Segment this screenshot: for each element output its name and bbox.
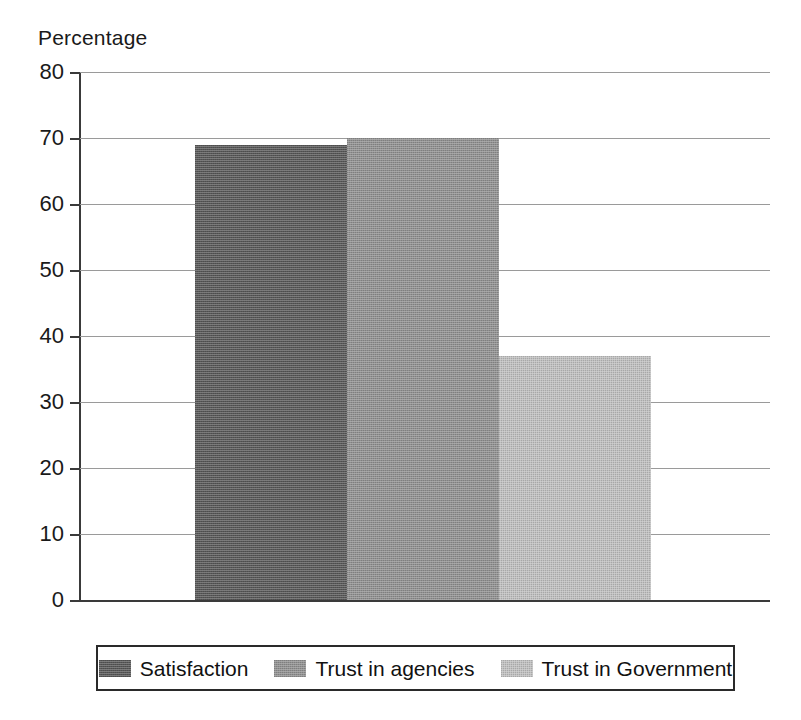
bar-satisfaction — [195, 145, 347, 600]
legend-label: Trust in agencies — [315, 658, 474, 679]
legend-item: Satisfaction — [99, 658, 249, 679]
bar-trust-in-government — [499, 356, 651, 600]
bar-texture — [347, 138, 499, 600]
y-tick-label: 60 — [8, 193, 64, 215]
y-axis-title: Percentage — [38, 26, 147, 50]
bar-texture — [499, 356, 651, 600]
y-tick-label: 20 — [8, 457, 64, 479]
y-tick-label: 80 — [8, 61, 64, 83]
legend-label: Trust in Government — [542, 658, 733, 679]
y-tick-label: 40 — [8, 325, 64, 347]
gridline — [80, 72, 770, 73]
plot-area — [80, 72, 770, 600]
legend-swatch-icon — [274, 660, 306, 677]
y-tick-label: 50 — [8, 259, 64, 281]
legend-item: Trust in agencies — [274, 658, 474, 679]
bar-texture — [195, 145, 347, 600]
swatch-texture — [274, 660, 306, 677]
chart-legend: SatisfactionTrust in agenciesTrust in Go… — [96, 645, 735, 691]
legend-label: Satisfaction — [140, 658, 249, 679]
y-tick-label: 0 — [8, 589, 64, 611]
y-tick-label: 30 — [8, 391, 64, 413]
bar-trust-in-agencies — [347, 138, 499, 600]
legend-swatch-icon — [501, 660, 533, 677]
swatch-texture — [501, 660, 533, 677]
axis-baseline — [80, 600, 770, 602]
y-tick-label: 70 — [8, 127, 64, 149]
y-tick-label: 10 — [8, 523, 64, 545]
legend-swatch-icon — [99, 660, 131, 677]
legend-item: Trust in Government — [501, 658, 733, 679]
swatch-texture — [99, 660, 131, 677]
bar-chart: Percentage 80706050403020100 Satisfactio… — [0, 0, 801, 720]
